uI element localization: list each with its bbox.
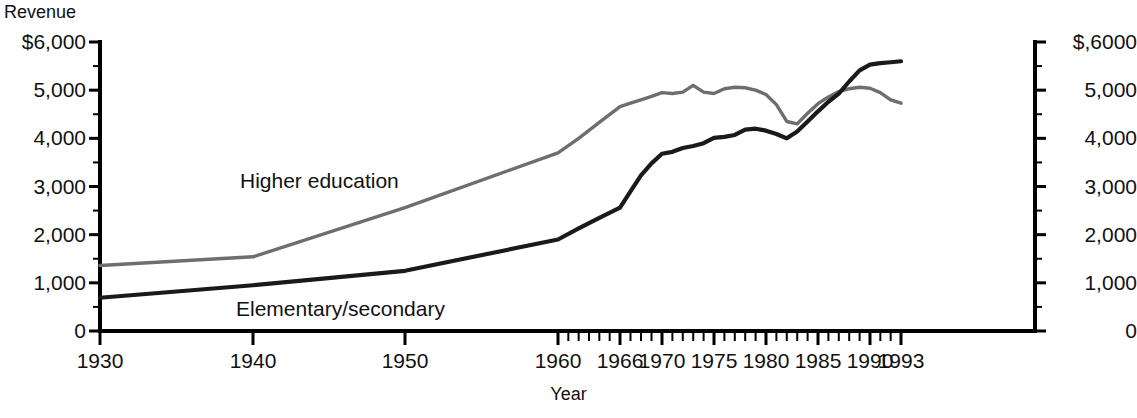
y-axis-tick-label-left: 4,000: [33, 127, 86, 148]
y-axis-tick-label-right: 4,000: [1051, 127, 1137, 148]
series-label-higher-education: Higher education: [240, 170, 399, 191]
x-axis-tick-label: 1993: [861, 350, 941, 371]
y-axis-tick-label-left: 5,000: [33, 79, 86, 100]
y-axis-tick-label-left: 0: [74, 320, 86, 341]
x-axis-tick-label: 1950: [365, 350, 445, 371]
y-axis-tick-label-right: 0: [1051, 320, 1137, 341]
data-series-paths: [100, 61, 901, 297]
y-axis-tick-label-right: 2,000: [1051, 224, 1137, 245]
y-axis-tick-label-right: 3,000: [1051, 176, 1137, 197]
x-axis-tick-label: 1930: [60, 350, 140, 371]
y-axis-tick-label-right: 1,000: [1051, 272, 1137, 293]
y-axis-tick-label-right: 5,000: [1051, 79, 1137, 100]
revenue-line-chart: Revenue Year $6,0005,0004,0003,0002,0001…: [0, 0, 1137, 418]
y-axis-tick-label-left: 3,000: [33, 176, 86, 197]
y-axis-tick-label-right: $,6000: [1051, 31, 1137, 52]
x-axis-tick-label: 1940: [213, 350, 293, 371]
y-axis-tick-label-left: 2,000: [33, 224, 86, 245]
y-axis-tick-label-left: 1,000: [33, 272, 86, 293]
y-axis-tick-label-left: $6,000: [22, 31, 86, 52]
x-axis-ticks: [100, 331, 901, 345]
series-label-elementary-secondary: Elementary/secondary: [236, 298, 445, 319]
